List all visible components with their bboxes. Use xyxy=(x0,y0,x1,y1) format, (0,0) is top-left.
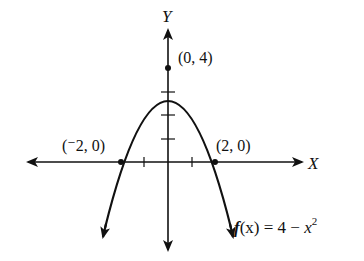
vertex-label: (0, 4) xyxy=(178,50,213,66)
function-var: x xyxy=(304,218,312,237)
left-root-point xyxy=(118,159,124,165)
function-eq: = 4 − xyxy=(260,218,305,237)
function-arg: (x) xyxy=(240,218,260,237)
left-root-label: (⁻2, 0) xyxy=(62,138,105,154)
x-axis-label: X xyxy=(308,155,318,172)
left-arrow-tip xyxy=(103,224,106,237)
function-exponent: 2 xyxy=(312,215,318,227)
right-root-point xyxy=(212,159,218,165)
y-axis-label: Y xyxy=(162,8,171,25)
right-root-label: (2, 0) xyxy=(216,138,251,154)
right-arrow-tip xyxy=(230,224,233,237)
vertex-point xyxy=(165,65,171,71)
function-label: f(x) = 4 − x2 xyxy=(234,219,317,236)
